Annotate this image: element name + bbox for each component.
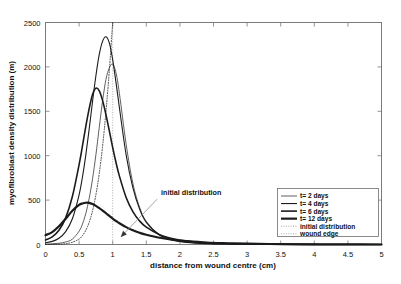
x-tick-label: 3.5 <box>275 250 285 259</box>
x-tick-label: 0.5 <box>74 250 84 259</box>
x-tick-label: 5 <box>379 250 383 259</box>
x-tick-label: 1 <box>111 250 115 259</box>
x-tick-label: 0 <box>43 250 47 259</box>
y-tick-label: 1000 <box>24 152 41 161</box>
y-tick-label: 0 <box>36 241 40 250</box>
x-tick-label: 3 <box>245 250 249 259</box>
x-tick-label: 4.5 <box>343 250 353 259</box>
y-axis-tick-labels: 05001000150020002500 <box>24 19 41 250</box>
x-tick-label: 2 <box>178 250 182 259</box>
x-tick-label: 1.5 <box>141 250 151 259</box>
chart-legend[interactable]: t= 2 dayst= 4 dayst= 6 dayst= 12 daysini… <box>278 189 379 239</box>
y-tick-label: 2000 <box>24 63 41 72</box>
y-tick-label: 500 <box>28 196 41 205</box>
y-tick-label: 1500 <box>24 107 41 116</box>
figure-container: 00.511.522.533.544.55 050010001500200025… <box>0 0 401 284</box>
annotation-label: initial distribution <box>161 188 221 197</box>
y-axis-title: myofibroblast density distribution (m) <box>7 61 16 205</box>
x-axis-tick-labels: 00.511.522.533.544.55 <box>43 250 383 259</box>
x-axis-title: distance from wound centre (cm) <box>150 261 276 270</box>
x-tick-label: 2.5 <box>208 250 218 259</box>
chart-canvas: 00.511.522.533.544.55 050010001500200025… <box>0 0 401 284</box>
x-tick-label: 4 <box>312 250 316 259</box>
legend-label-4[interactable]: initial distribution <box>300 223 355 230</box>
legend-label-5[interactable]: wound edge <box>299 230 339 238</box>
y-tick-label: 2500 <box>24 19 41 28</box>
